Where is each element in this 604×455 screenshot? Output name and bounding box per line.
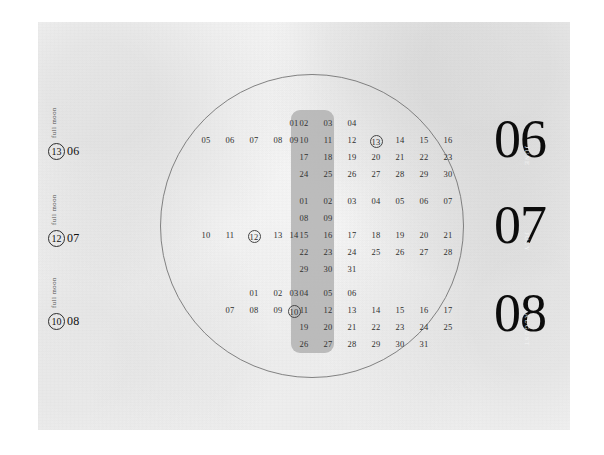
calendar-day: 19 <box>342 152 362 163</box>
calendar-day: 08 <box>294 213 314 224</box>
calendar-day: 12 <box>342 135 362 146</box>
calendar-day: 17 <box>438 305 458 316</box>
calendar-day: 22 <box>294 247 314 258</box>
calendar-day: 11 <box>220 230 240 241</box>
calendar-day: 19 <box>294 322 314 333</box>
month-numeral-06: 06JUNE <box>494 112 546 166</box>
calendar-day: 08 <box>244 305 264 316</box>
calendar-day: 07 <box>220 305 240 316</box>
calendar-day: 29 <box>294 264 314 275</box>
calendar-day: 22 <box>414 152 434 163</box>
calendar-day: 28 <box>438 247 458 258</box>
calendar-day: 19 <box>390 230 410 241</box>
calendar-day: 13 <box>342 305 362 316</box>
calendar-day: 23 <box>438 152 458 163</box>
calendar-day: 03 <box>342 196 362 207</box>
calendar-day: 18 <box>366 230 386 241</box>
calendar-day: 24 <box>342 247 362 258</box>
calendar-day: 13 <box>366 135 386 148</box>
calendar-day: 21 <box>438 230 458 241</box>
calendar-day: 27 <box>414 247 434 258</box>
calendar-day: 09 <box>318 213 338 224</box>
month-name-label: JUNE <box>500 139 554 173</box>
month-name-label: JULY <box>500 225 554 259</box>
calendar-day: 05 <box>196 135 216 146</box>
calendar-day: 06 <box>342 288 362 299</box>
calendar-day: 29 <box>366 339 386 350</box>
calendar-day: 10 <box>196 230 216 241</box>
full-moon-day-highlight: 12 <box>248 230 261 243</box>
calendar-day: 27 <box>366 169 386 180</box>
calendar-day: 31 <box>342 264 362 275</box>
calendar-day: 15 <box>390 305 410 316</box>
calendar-day: 02 <box>294 118 314 129</box>
calendar-day: 24 <box>414 322 434 333</box>
calendar-day: 14 <box>366 305 386 316</box>
calendar-day: 20 <box>318 322 338 333</box>
calendar-day: 18 <box>318 152 338 163</box>
calendar-day: 25 <box>366 247 386 258</box>
calendar-day: 01 <box>294 196 314 207</box>
calendar-day: 15 <box>294 230 314 241</box>
calendar-day: 20 <box>414 230 434 241</box>
calendar-day: 16 <box>438 135 458 146</box>
calendar-day: 10 <box>294 135 314 146</box>
calendar-day: 06 <box>414 196 434 207</box>
calendar-day: 12 <box>318 305 338 316</box>
calendar-day: 28 <box>390 169 410 180</box>
calendar-day: 30 <box>318 264 338 275</box>
calendar-day: 16 <box>318 230 338 241</box>
calendar-day: 25 <box>318 169 338 180</box>
calendar-day: 27 <box>318 339 338 350</box>
calendar-day: 04 <box>366 196 386 207</box>
calendar-day: 11 <box>318 135 338 146</box>
calendar-day: 05 <box>390 196 410 207</box>
calendar-poster: full moon1306full moon1207full moon1008 … <box>0 0 604 455</box>
calendar-day: 02 <box>318 196 338 207</box>
calendar-day: 17 <box>294 152 314 163</box>
calendar-day: 03 <box>318 118 338 129</box>
calendar-day: 05 <box>318 288 338 299</box>
calendar-day: 22 <box>366 322 386 333</box>
full-moon-day-highlight: 13 <box>370 135 383 148</box>
calendar-day: 01 <box>244 288 264 299</box>
month-numeral-07: 07JULY <box>494 198 546 252</box>
calendar-day: 15 <box>414 135 434 146</box>
calendar-day: 21 <box>390 152 410 163</box>
calendar-day: 17 <box>342 230 362 241</box>
calendar-day: 25 <box>438 322 458 333</box>
calendar-day: 28 <box>342 339 362 350</box>
calendar-day: 12 <box>244 230 264 243</box>
calendar-day: 23 <box>318 247 338 258</box>
calendar-day: 16 <box>414 305 434 316</box>
calendar-day: 26 <box>390 247 410 258</box>
month-name-label: AUGUST <box>500 313 554 347</box>
calendar-day: 30 <box>438 169 458 180</box>
month-numeral-08: 08AUGUST <box>494 286 546 340</box>
calendar-day: 04 <box>342 118 362 129</box>
calendar-day: 14 <box>390 135 410 146</box>
calendar-day: 30 <box>390 339 410 350</box>
calendar-day: 31 <box>414 339 434 350</box>
calendar-day: 07 <box>244 135 264 146</box>
calendar-day: 26 <box>294 339 314 350</box>
calendar-day: 21 <box>342 322 362 333</box>
calendar-day: 04 <box>294 288 314 299</box>
calendar-day: 11 <box>294 305 314 316</box>
calendar-day: 20 <box>366 152 386 163</box>
calendar-day: 06 <box>220 135 240 146</box>
calendar-day: 07 <box>438 196 458 207</box>
calendar-day: 23 <box>390 322 410 333</box>
calendar-day: 29 <box>414 169 434 180</box>
calendar-day: 26 <box>342 169 362 180</box>
calendar-day: 24 <box>294 169 314 180</box>
